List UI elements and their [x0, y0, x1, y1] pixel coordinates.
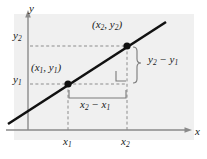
- run-label-minus: −: [89, 98, 102, 110]
- run-label: x2 − x1: [80, 99, 110, 112]
- tick-label-x1-sub: 1: [68, 140, 72, 149]
- point-label-2-close: ): [118, 18, 122, 30]
- point-label-1-close: ): [57, 61, 61, 73]
- slope-diagram-figure: y x y2 y1 x1 x2 (x1, y1) (x2, y2) y2 − y…: [0, 0, 207, 159]
- point-label-2: (x2, y2): [92, 19, 122, 32]
- tick-label-y1: y1: [13, 74, 22, 87]
- run-label-second-sub: 1: [106, 103, 110, 112]
- rise-label-minus: −: [157, 53, 170, 65]
- plot-panel-background: [14, 14, 194, 140]
- tick-label-y1-sub: 1: [18, 78, 22, 87]
- point-marker-2: [123, 42, 130, 49]
- rise-label-second-sub: 1: [174, 58, 178, 67]
- y-axis-label: y: [29, 3, 34, 14]
- point-marker-1: [64, 80, 71, 87]
- x-axis-label: x: [195, 126, 200, 137]
- tick-label-x1: x1: [63, 136, 72, 149]
- tick-label-y2: y2: [13, 30, 22, 43]
- tick-label-x2-sub: 2: [126, 140, 130, 149]
- point-label-1: (x1, y1): [31, 62, 61, 75]
- rise-label: y2 − y1: [148, 54, 178, 67]
- tick-label-x2: x2: [121, 136, 130, 149]
- tick-label-y2-sub: 2: [18, 34, 22, 43]
